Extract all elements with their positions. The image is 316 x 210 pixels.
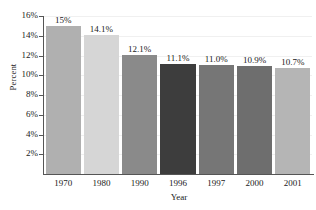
bar[interactable] <box>199 65 234 174</box>
y-tick-label: 6% <box>14 110 38 119</box>
y-tick-label: 2% <box>14 149 38 158</box>
chart-title <box>0 0 316 1</box>
bar[interactable] <box>160 64 195 174</box>
x-axis-tick-labels: 1970198019901996199720002001 <box>44 178 314 192</box>
x-tick-label: 2001 <box>269 178 316 189</box>
bar[interactable] <box>46 26 81 174</box>
bar[interactable] <box>84 35 119 174</box>
bar-chart: Percent 16%14%12%10%8%6%4%2% 19701980199… <box>0 0 316 210</box>
bars-container <box>44 16 314 174</box>
bar-value-label: 10.7% <box>267 57 316 67</box>
y-tick-label: 10% <box>14 70 38 79</box>
bar-value-label: 12.1% <box>114 44 165 54</box>
y-tick-label: 16% <box>14 11 38 20</box>
bar[interactable] <box>237 66 272 174</box>
y-tick-label: 12% <box>14 51 38 60</box>
bar[interactable] <box>275 68 310 174</box>
y-tick-label: 4% <box>14 130 38 139</box>
x-axis-line <box>44 174 314 175</box>
x-axis-label: Year <box>44 192 314 203</box>
bar-value-label: 14.1% <box>76 24 127 34</box>
y-tick-label: 8% <box>14 90 38 99</box>
bar[interactable] <box>122 55 157 174</box>
y-axis-tick-labels: 16%14%12%10%8%6%4%2% <box>12 0 38 210</box>
y-tick-label: 14% <box>14 31 38 40</box>
